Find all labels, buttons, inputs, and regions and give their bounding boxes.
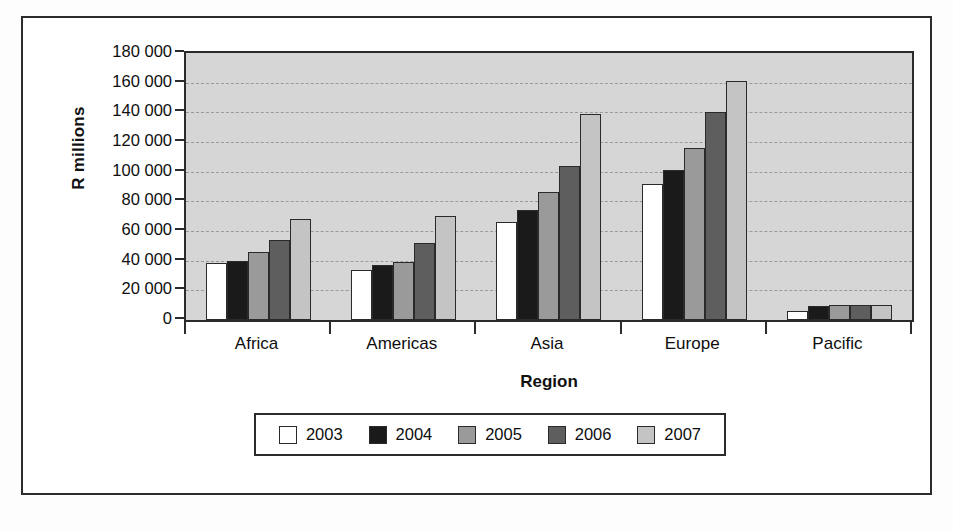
bar xyxy=(372,265,393,320)
bar xyxy=(393,262,414,320)
bar xyxy=(414,243,435,320)
bar xyxy=(829,305,850,320)
figure-page: R millions 180 000160 000140 000120 0001… xyxy=(0,0,953,530)
legend-label: 2003 xyxy=(306,425,343,444)
x-axis-tick-label: Pacific xyxy=(812,334,862,354)
bar-group xyxy=(767,53,912,320)
bar xyxy=(351,270,372,320)
y-axis-tick-mark xyxy=(175,198,184,200)
bar-group xyxy=(622,53,767,320)
x-axis-tick-label: Africa xyxy=(235,334,278,354)
bar xyxy=(787,311,808,320)
bar-group-inner xyxy=(496,114,601,320)
bar-group xyxy=(186,53,331,320)
bar xyxy=(642,184,663,320)
legend-item[interactable]: 2007 xyxy=(637,425,701,444)
bar-group xyxy=(331,53,476,320)
y-axis-tick-label: 80 000 xyxy=(52,190,172,209)
legend-label: 2005 xyxy=(485,425,522,444)
legend-swatch-icon xyxy=(548,426,566,444)
y-axis-tick-marks xyxy=(175,51,184,318)
bar xyxy=(206,263,227,320)
y-axis-tick-mark xyxy=(175,287,184,289)
legend-swatch-icon xyxy=(458,426,476,444)
y-axis-tick-mark xyxy=(175,139,184,141)
y-axis-tick-mark xyxy=(175,50,184,52)
x-axis-separator xyxy=(474,320,476,334)
bar xyxy=(227,261,248,320)
y-axis-tick-label: 120 000 xyxy=(52,131,172,150)
bar xyxy=(808,306,829,320)
legend-item[interactable]: 2005 xyxy=(458,425,522,444)
bar xyxy=(290,219,311,320)
legend-label: 2004 xyxy=(396,425,433,444)
y-axis-tick-mark xyxy=(175,258,184,260)
x-axis-separator xyxy=(620,320,622,334)
bar-chart: R millions 180 000160 000140 000120 0001… xyxy=(23,18,934,497)
bar xyxy=(248,252,269,320)
bar xyxy=(269,240,290,320)
bar xyxy=(726,81,747,320)
legend-swatch-icon xyxy=(369,426,387,444)
x-axis-tick-label: Europe xyxy=(665,334,720,354)
y-axis-tick-labels: 180 000160 000140 000120 000100 00080 00… xyxy=(48,51,172,318)
bar-group-inner xyxy=(787,305,892,320)
y-axis-tick-label: 20 000 xyxy=(52,279,172,298)
legend-item[interactable]: 2004 xyxy=(369,425,433,444)
x-axis-separator xyxy=(910,320,912,334)
bar xyxy=(684,148,705,320)
bar-group-inner xyxy=(642,81,747,320)
bar xyxy=(663,170,684,320)
bar-series-container xyxy=(186,53,912,320)
legend-item[interactable]: 2003 xyxy=(279,425,343,444)
y-axis-tick-label: 180 000 xyxy=(52,42,172,61)
plot-area xyxy=(184,51,914,322)
y-axis-tick-label: 160 000 xyxy=(52,71,172,90)
y-axis-tick-label: 60 000 xyxy=(52,220,172,239)
bar xyxy=(496,222,517,320)
x-axis-separator xyxy=(765,320,767,334)
bar xyxy=(705,112,726,320)
x-axis-category-separators xyxy=(184,320,914,334)
bar xyxy=(850,305,871,320)
figure-frame: R millions 180 000160 000140 000120 0001… xyxy=(21,16,932,495)
y-axis-tick-mark xyxy=(175,109,184,111)
legend-swatch-icon xyxy=(279,426,297,444)
bar xyxy=(871,305,892,320)
bar-group xyxy=(476,53,621,320)
y-axis-tick-mark xyxy=(175,169,184,171)
y-axis-tick-mark xyxy=(175,228,184,230)
legend-label: 2006 xyxy=(575,425,612,444)
bar xyxy=(538,192,559,320)
x-axis-tick-labels: AfricaAmericasAsiaEuropePacific xyxy=(184,334,914,364)
y-axis-tick-label: 100 000 xyxy=(52,160,172,179)
y-axis-tick-label: 40 000 xyxy=(52,249,172,268)
bar-group-inner xyxy=(206,219,311,320)
bar xyxy=(435,216,456,320)
bar xyxy=(517,210,538,320)
y-axis-tick-mark xyxy=(175,317,184,319)
x-axis-tick-label: Americas xyxy=(366,334,437,354)
x-axis-separator xyxy=(329,320,331,334)
y-axis-tick-label: 140 000 xyxy=(52,101,172,120)
legend-label: 2007 xyxy=(664,425,701,444)
legend-swatch-icon xyxy=(637,426,655,444)
chart-legend: 20032004200520062007 xyxy=(254,413,726,456)
x-axis-tick-label: Asia xyxy=(530,334,563,354)
y-axis-tick-mark xyxy=(175,80,184,82)
x-axis-title: Region xyxy=(184,372,914,392)
bar-group-inner xyxy=(351,216,456,320)
bar xyxy=(559,166,580,320)
legend-item[interactable]: 2006 xyxy=(548,425,612,444)
x-axis-separator xyxy=(184,320,186,334)
bar xyxy=(580,114,601,320)
y-axis-tick-label: 0 xyxy=(52,309,172,328)
